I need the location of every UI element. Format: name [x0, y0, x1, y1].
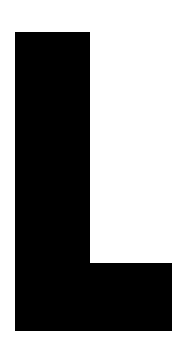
letter-l-glyph: L — [0, 0, 187, 357]
image-canvas: L L Uppercase letter L rendered as a sol… — [0, 0, 187, 357]
